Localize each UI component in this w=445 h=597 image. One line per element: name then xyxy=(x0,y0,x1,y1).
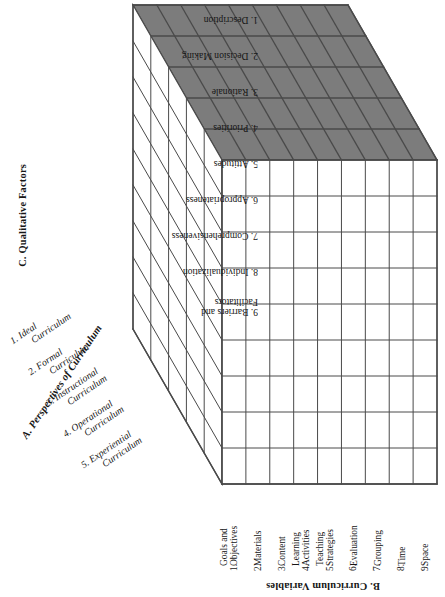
axis-c-item-number: 3. xyxy=(251,87,258,98)
axis-b-item-label: Learning xyxy=(291,486,301,566)
axis-c-item-label: Decision Making xyxy=(182,51,251,62)
axis-b-item-label: Evaluation xyxy=(349,486,359,566)
axis-b-title: B. Curriculum Variables xyxy=(228,580,418,591)
axis-b-item-label: Space xyxy=(420,486,430,566)
axis-b-item-5: TeachingStrategies xyxy=(315,486,335,566)
axis-b-item-4: LearningActivities xyxy=(291,486,311,566)
axis-b-item-label: Content xyxy=(277,486,287,566)
axis-b-item-label: Time xyxy=(397,486,407,566)
axis-b-item-label: Materials xyxy=(253,486,263,566)
axis-b-item-label: Teaching xyxy=(315,486,325,566)
axis-b-item-2: Materials xyxy=(253,486,263,566)
axis-c-item-label: Individualization xyxy=(183,267,251,278)
axis-c-item-label: Description xyxy=(204,15,251,26)
axis-c-item-7: 7. Comprehensiveness xyxy=(130,231,258,241)
axis-c-item-number: 8. xyxy=(251,267,258,278)
axis-c-item-label: Attitudes xyxy=(214,159,251,170)
axis-b-item-label-2: Strategies xyxy=(325,486,335,566)
axis-b-item-6: Evaluation xyxy=(349,486,359,566)
axis-c-item-number: 5. xyxy=(251,159,258,170)
axis-b-item-label: Goals and xyxy=(219,486,229,566)
axis-c-item-number: 2. xyxy=(251,51,258,62)
axis-c-item-4: 4. Priorities xyxy=(130,123,258,133)
axis-b-item-label-2: Objectives xyxy=(230,486,240,566)
axis-b-item-7: Grouping xyxy=(373,486,383,566)
axis-c-item-label: Priorities xyxy=(213,123,251,134)
axis-b-item-9: Space xyxy=(420,486,430,566)
axis-c-item-number: 4. xyxy=(251,123,258,134)
axis-c-item-3: 3. Rationale xyxy=(130,87,258,97)
axis-b-item-1: Goals andObjectives xyxy=(219,486,239,566)
axis-c-item-9: 9. Barriers andFacilitators xyxy=(130,297,258,317)
axis-c-item-1: 1. Description xyxy=(130,15,258,25)
axis-c-item-label: Rationale xyxy=(212,87,251,98)
axis-c-title: C. Qualitative Factors xyxy=(18,140,29,290)
axis-c-item-6: 6. Appropriateness xyxy=(130,195,258,205)
axis-c-item-number: 7. xyxy=(251,231,258,242)
axis-c-item-number: 9. xyxy=(251,307,258,318)
axis-b-item-label-2: Activities xyxy=(301,486,311,566)
axis-b-item-3: Content xyxy=(277,486,287,566)
axis-c-item-number: 1. xyxy=(251,15,258,26)
axis-c-item-5: 5. Attitudes xyxy=(130,159,258,169)
axis-c-item-label: Comprehensiveness xyxy=(172,231,251,242)
axis-c-item-8: 8. Individualization xyxy=(130,267,258,277)
figure-canvas: 1. IdealCurriculum2. FormalCurriculum3. … xyxy=(0,0,445,597)
axis-c-item-label-2: Facilitators xyxy=(215,297,258,308)
cube-front-face xyxy=(222,160,437,484)
axis-c-item-label: Barriers and xyxy=(201,307,251,318)
axis-c-item-2: 2. Decision Making xyxy=(130,51,258,61)
axis-b-item-8: Time xyxy=(397,486,407,566)
axis-c-item-number: 6. xyxy=(251,195,258,206)
axis-b-item-label: Grouping xyxy=(373,486,383,566)
axis-c-item-label: Appropriateness xyxy=(186,195,251,206)
